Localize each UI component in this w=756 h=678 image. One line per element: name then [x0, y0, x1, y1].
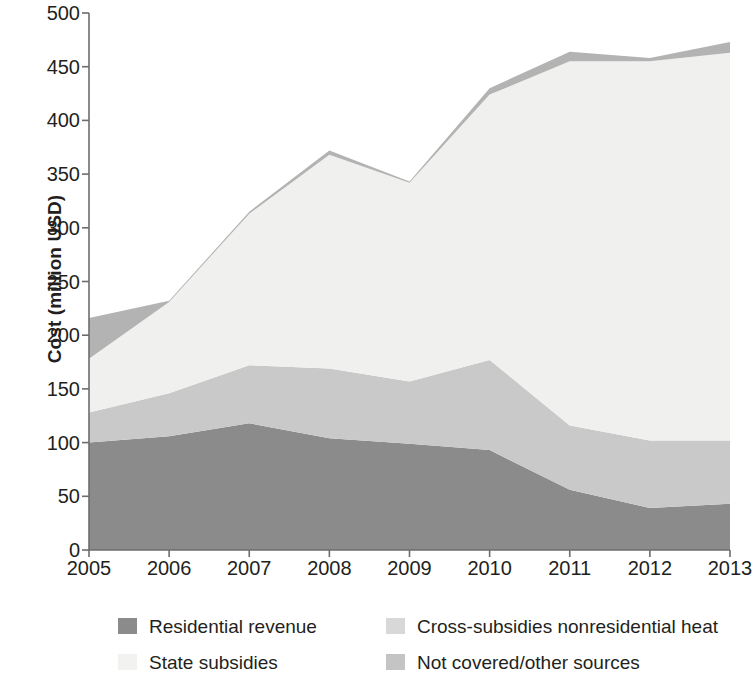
- legend-label: Residential revenue: [149, 617, 317, 636]
- y-tick-label-250: 250: [22, 272, 80, 292]
- y-tick-label-200: 200: [22, 325, 80, 345]
- legend-swatch-icon: [118, 654, 137, 670]
- legend-item-cross-subsidies-nonresidential-heat[interactable]: Cross-subsidies nonresidential heat: [386, 617, 738, 636]
- x-axis-tick-marks: [89, 550, 730, 557]
- legend-swatch-icon: [118, 618, 137, 634]
- x-tick-label-2011: 2011: [530, 558, 610, 578]
- x-tick-label-2005: 2005: [49, 558, 129, 578]
- y-tick-label-150: 150: [22, 379, 80, 399]
- y-tick-label-450: 450: [22, 57, 80, 77]
- x-axis-tick-labels: 200520062007200820092010201120122013: [0, 558, 750, 588]
- legend-label: Not covered/other sources: [417, 653, 640, 672]
- y-tick-label-500: 500: [22, 3, 80, 23]
- legend-label: Cross-subsidies nonresidential heat: [417, 617, 718, 636]
- stacked-area-series-group: [89, 13, 730, 550]
- y-tick-label-100: 100: [22, 433, 80, 453]
- chart-legend: Residential revenueCross-subsidies nonre…: [118, 608, 738, 678]
- x-tick-label-2013: 2013: [690, 558, 756, 578]
- y-tick-label-350: 350: [22, 164, 80, 184]
- x-tick-label-2012: 2012: [610, 558, 690, 578]
- y-tick-label-400: 400: [22, 110, 80, 130]
- x-tick-label-2008: 2008: [289, 558, 369, 578]
- legend-item-residential-revenue[interactable]: Residential revenue: [118, 617, 386, 636]
- y-tick-label-300: 300: [22, 218, 80, 238]
- x-tick-label-2010: 2010: [450, 558, 530, 578]
- plot-area: [89, 13, 730, 550]
- x-tick-label-2007: 2007: [209, 558, 289, 578]
- x-tick-label-2009: 2009: [370, 558, 450, 578]
- legend-swatch-icon: [386, 654, 405, 670]
- y-tick-label-50: 50: [22, 486, 80, 506]
- legend-label: State subsidies: [149, 653, 278, 672]
- x-tick-label-2006: 2006: [129, 558, 209, 578]
- legend-item-state-subsidies[interactable]: State subsidies: [118, 653, 386, 672]
- legend-swatch-icon: [386, 618, 405, 634]
- legend-item-not-covered-other-sources[interactable]: Not covered/other sources: [386, 653, 738, 672]
- y-axis-tick-marks: [82, 13, 89, 550]
